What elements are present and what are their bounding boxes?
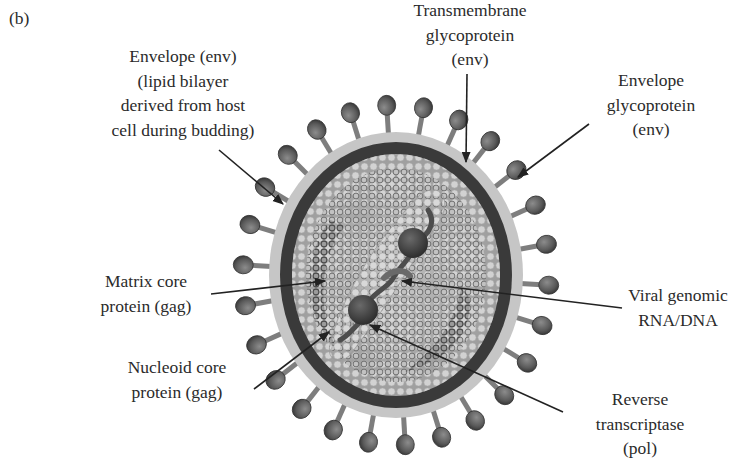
spike-head [530,314,554,337]
reverse-transcriptase-upper [398,228,428,258]
label-line: cell during budding) [96,118,270,143]
label-line: protein (gag) [88,294,204,319]
label-envelope: Envelope (env) (lipid bilayer derived fr… [96,44,270,142]
arrow-envelope-glycoprotein [518,124,589,177]
spike-head [321,417,346,443]
label-line: Matrix core [88,269,204,294]
spike-head [238,213,262,236]
capsid-core [306,168,486,382]
label-reverse-transcriptase: Reverse transcriptase (pol) [580,387,700,460]
spike-head [304,116,330,142]
spike-head [523,193,549,218]
label-matrix-core-protein: Matrix core protein (gag) [88,269,204,318]
label-line: Envelope [595,68,707,93]
spike-head [535,234,558,255]
label-viral-genomic-rna: Viral genomic RNA/DNA [616,283,740,332]
label-transmembrane-glycoprotein: Transmembrane glycoprotein (env) [400,0,540,72]
label-nucleoid-core-protein: Nucleoid core protein (gag) [112,355,242,404]
spike-head [358,431,379,454]
label-line: glycoprotein [595,93,707,118]
label-envelope-glycoprotein: Envelope glycoprotein (env) [595,68,707,142]
label-line: Reverse [580,387,700,412]
label-line: Nucleoid core [112,355,242,380]
spike-head [339,100,362,124]
arrow-transmembrane [466,74,467,162]
label-line: Envelope (env) [96,44,270,69]
spike-head [538,276,559,295]
spike-head [462,407,488,433]
spike-head [244,333,270,358]
label-line: RNA/DNA [616,308,740,333]
label-line: derived from host [96,93,270,118]
label-line: Transmembrane [400,0,540,23]
label-line: (env) [595,117,707,142]
label-line: Viral genomic [616,283,740,308]
spike-head [413,96,434,119]
arrow-envelope [219,150,283,204]
label-line: (env) [400,47,540,72]
spike-head [377,95,396,116]
spike-head [234,295,257,316]
label-line: protein (gag) [112,380,242,405]
label-line: glycoprotein [400,23,540,48]
reverse-transcriptase-lower [348,295,378,325]
spike-head [396,434,415,455]
spike-head [514,350,540,376]
spike-head [430,425,453,449]
label-line: (pol) [580,436,700,460]
spike-head [233,255,254,274]
label-line: (lipid bilayer [96,69,270,94]
label-line: transcriptase [580,412,700,437]
